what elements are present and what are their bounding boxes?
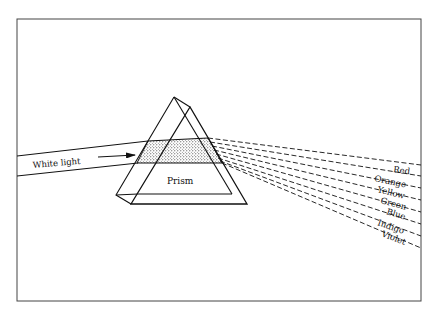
spectrum-labels: Red Orange Yellow Green Blue Indigo Viol…	[374, 164, 412, 247]
prism-label: Prism	[167, 176, 194, 186]
prism-diagram: White light Prism Red Orange Yellow Gree…	[0, 0, 437, 316]
label-red: Red	[393, 164, 412, 176]
white-light-label: White light	[32, 156, 81, 170]
dispersion-region	[137, 138, 222, 163]
white-light-beam: White light	[17, 141, 148, 176]
arrow-icon	[98, 155, 135, 157]
